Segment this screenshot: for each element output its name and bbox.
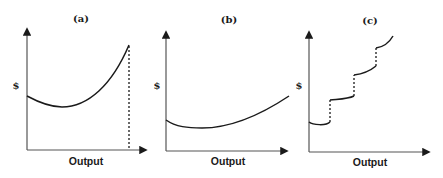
panel-b-cost-curve [166,96,289,128]
panel-b: (b) $ Output [154,14,289,167]
panel-c-step-4 [376,36,393,48]
panel-c: (c) $ Output [296,15,429,168]
panel-c-step-2 [330,96,354,100]
panel-b-x-axis-label: Output [211,155,246,167]
panel-c-y-axis-label: $ [296,80,303,91]
panel-c-step-3 [354,66,376,75]
panel-a-title: (a) [73,13,89,24]
panel-a-cost-curve [27,45,129,107]
panel-a-x-axis-label: Output [69,155,104,167]
panel-c-step-1 [309,122,330,125]
panel-b-title: (b) [221,14,237,25]
panel-b-y-axis-label: $ [154,80,161,91]
panel-a-y-axis-label: $ [13,80,20,91]
panel-c-x-axis-label: Output [353,156,388,168]
cost-curves-figure: (a) $ Output (b) $ Output (c) $ Output [0,0,443,178]
panel-a: (a) $ Output [13,13,146,167]
panel-c-title: (c) [362,15,378,26]
